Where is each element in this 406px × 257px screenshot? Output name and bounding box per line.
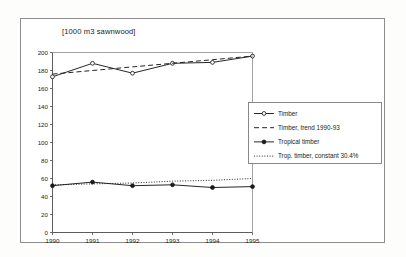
series-line [53, 179, 253, 185]
legend-sample-marker [262, 112, 266, 116]
y-axis-tick-label: 120 [38, 121, 49, 128]
y-axis-tick-label: 180 [38, 67, 49, 74]
figure-container: [1000 m3 sawnwood] 020406080100120140160… [0, 0, 406, 257]
y-axis-tick-label: 80 [41, 157, 48, 164]
series-data-point [51, 75, 55, 79]
x-axis-tick-label: 1990 [46, 237, 60, 244]
series-data-point [251, 185, 255, 189]
legend-item-label: Timber, trend 1990-93 [278, 124, 340, 131]
series-data-point [131, 184, 135, 188]
legend-item-label: Timber [278, 110, 297, 117]
series-data-point [211, 61, 215, 65]
series-data-point [211, 186, 215, 190]
y-axis-tick-label: 100 [38, 139, 49, 146]
y-axis-tick-label: 20 [41, 211, 48, 218]
x-axis-tick-label: 1991 [86, 237, 100, 244]
y-axis-tick-label: 200 [38, 49, 49, 56]
y-axis-tick-label: 140 [38, 103, 49, 110]
series-data-point [91, 61, 95, 65]
y-axis-tick-label: 40 [41, 193, 48, 200]
x-axis-tick-group: 199019911992199319941995 [46, 233, 260, 244]
series-data-point [171, 183, 175, 187]
chart-plot: 020406080100120140160180200 199019911992… [0, 0, 406, 257]
x-axis-tick-label: 1993 [166, 237, 180, 244]
legend-sample-marker [262, 140, 266, 144]
y-axis-tick-label: 160 [38, 85, 49, 92]
series-line [53, 56, 253, 74]
legend-item-label: Trop. timber, constant 30.4% [278, 152, 359, 160]
series-data-point [91, 180, 95, 184]
data-series-group [51, 54, 255, 189]
x-axis-tick-label: 1992 [126, 237, 140, 244]
y-axis-tick-label: 60 [41, 175, 48, 182]
x-axis-tick-label: 1994 [206, 237, 220, 244]
series-line [53, 182, 253, 187]
legend-item-label: Tropical timber [278, 138, 319, 146]
y-axis-tick-label: 0 [45, 229, 49, 236]
x-axis-tick-label: 1995 [246, 237, 260, 244]
series-data-point [131, 71, 135, 75]
